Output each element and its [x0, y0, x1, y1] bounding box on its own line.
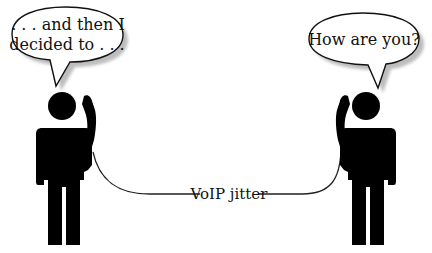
right-phone-handset — [336, 95, 350, 152]
phone-cord-left — [93, 152, 200, 194]
voip-jitter-label: VoIP jitter — [190, 185, 269, 203]
left-phone-handset — [82, 95, 96, 152]
phone-cord-right — [258, 150, 341, 194]
left-speech-line-2: decided to . . . — [9, 35, 124, 54]
right-speech-line-1: How are you? — [308, 30, 420, 49]
voip-diagram: . . . and then I decided to . . . How ar… — [0, 0, 432, 253]
left-person-head — [48, 92, 76, 120]
left-speech-line-1: . . . and then I — [11, 15, 125, 34]
left-speech-bubble: . . . and then I decided to . . . — [9, 7, 128, 91]
right-person-icon — [336, 92, 396, 245]
right-person-head — [352, 92, 380, 120]
left-person-icon — [36, 92, 96, 245]
right-speech-bubble: How are you? — [308, 13, 424, 93]
